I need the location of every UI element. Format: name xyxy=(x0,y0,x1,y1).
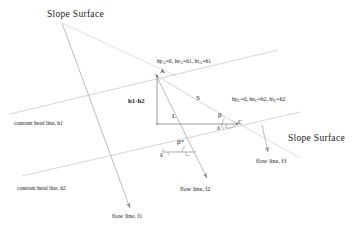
head-annotation-point-a: hpA=0, heA=h1, htA=h1 xyxy=(157,59,211,65)
segment-l-label: L xyxy=(172,113,176,120)
diagram-canvas: Slope Surface Slope Surface hpA=0, heA=h… xyxy=(0,0,358,234)
flow-line-f1-stroke xyxy=(62,23,130,208)
ht-a-value: =h1 xyxy=(202,58,211,64)
point-a-marker xyxy=(156,75,158,77)
flow-line-f2-label: flow line, f2 xyxy=(180,186,210,192)
flow-line-f2-stroke xyxy=(155,73,207,178)
hp-c-value: =0 xyxy=(240,96,246,102)
segment-h1-h2-label: h1-h2 xyxy=(128,98,145,105)
constant-head-line-h1-label: constant head line, h1 xyxy=(14,121,63,127)
segment-s-label: S xyxy=(196,95,200,102)
slope-surface-left-label: Slope Surface xyxy=(47,10,104,20)
he-c-value: =h2 xyxy=(258,96,267,102)
angle-beta-label: β xyxy=(218,112,222,119)
ht-c-value: =h2 xyxy=(277,96,286,102)
angle-delta-star-label: δ xyxy=(160,152,163,158)
he-a-value: =h1 xyxy=(183,58,192,64)
angle-delta-label: δ xyxy=(217,125,220,131)
head-annotation-point-c: hpC=0, heC=h2, htC=h2 xyxy=(232,97,285,103)
angle-delta-star-arc xyxy=(168,152,169,155)
angle-beta-star-label: β* xyxy=(177,139,184,146)
angle-delta-arc-at-c xyxy=(221,124,224,130)
point-c-label: C xyxy=(238,119,242,126)
hp-a-value: =0 xyxy=(166,58,172,64)
angle-beta-arc-at-c xyxy=(222,118,225,124)
flow-line-f3-label: flow line, f3 xyxy=(256,158,286,164)
right-angle-mark-beta-star xyxy=(186,152,190,156)
diagram-vector-layer xyxy=(0,0,358,234)
flow-line-f1-label: flow line, f1 xyxy=(112,213,142,219)
angle-beta-star-arc xyxy=(182,147,185,153)
slope-surface-right-label: Slope Surface xyxy=(288,134,345,144)
constant-head-line-h2-label: constant head line, h2 xyxy=(17,186,66,192)
constant-head-line-h2-stroke xyxy=(22,112,300,176)
right-angle-mark-at-c xyxy=(226,124,230,128)
point-a-label: A xyxy=(160,68,165,75)
